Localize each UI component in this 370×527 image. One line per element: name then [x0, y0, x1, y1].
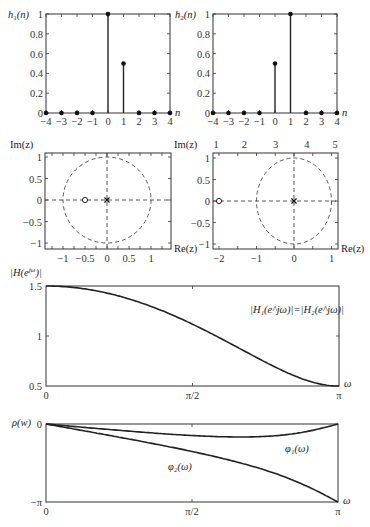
y-tick-label: 0: [37, 195, 42, 206]
y-tick-label: 1: [205, 9, 210, 20]
figure: 00.20.40.60.81−4−3−2−101234h1(n)n00.20.4…: [0, 0, 370, 527]
x-axis-label: ω: [344, 378, 351, 389]
stem-marker: [137, 111, 142, 116]
y-tick-label: 0.2: [197, 88, 210, 99]
top-tick-label: 4: [304, 139, 310, 150]
y-tick-label: 0.6: [197, 49, 210, 60]
y-tick-label: 0: [37, 419, 42, 430]
x-tick-label: 2: [303, 116, 308, 127]
y-axis-label: |H(ejω)|: [10, 266, 42, 279]
x-tick-label: 1: [148, 253, 153, 264]
x-tick-label: 0: [104, 253, 109, 264]
y-tick-label: 0.8: [197, 29, 210, 40]
stem-marker: [44, 111, 49, 116]
stem-marker: [226, 111, 231, 116]
y-tick-label: −0.5: [191, 218, 210, 229]
stem-plot-h1: 00.20.40.60.81−4−3−2−101234h1(n)n: [8, 9, 180, 127]
y-tick-label: 0.2: [30, 88, 43, 99]
y-tick-label: 0.8: [30, 29, 43, 40]
stem-marker: [152, 111, 157, 116]
stem-marker: [75, 111, 80, 116]
y-axis-label: ρ(w): [11, 417, 32, 429]
x-tick-label: 4: [334, 116, 340, 127]
x-tick-label: −1: [87, 116, 98, 127]
x-axis-label: Re(z): [174, 243, 198, 255]
x-tick-label: 3: [319, 116, 324, 127]
y-tick-label: 0.4: [30, 68, 44, 79]
stem-marker: [335, 111, 340, 116]
x-tick-label: π/2: [186, 390, 199, 401]
stem-marker: [211, 111, 216, 116]
stem-marker: [106, 12, 111, 17]
phase-plot: 0−π0π/2πρ(w)φ₁(ω)φ₂(ω)ω: [11, 417, 350, 517]
x-tick-label: π: [335, 506, 341, 517]
x-tick-label: 1: [329, 253, 334, 264]
y-axis-label: Im(z): [174, 139, 198, 151]
top-tick-label: 1: [213, 139, 218, 150]
x-axis-label: ω: [343, 495, 350, 506]
x-tick-label: −3: [56, 116, 67, 127]
y-tick-label: 0.5: [29, 381, 42, 392]
x-tick-label: −2: [238, 116, 249, 127]
stem-marker: [242, 111, 247, 116]
y-tick-label: 1.5: [29, 281, 42, 292]
pole-zero-plot-pz2: 12345−1−0.500.51−2−101Im(z)Re(z): [174, 139, 365, 264]
magnitude-curve: [46, 286, 339, 386]
stem-marker: [319, 111, 324, 116]
stem-marker: [304, 111, 309, 116]
x-tick-label: −1: [254, 116, 265, 127]
x-tick-label: −2: [71, 116, 82, 127]
y-tick-label: −1: [31, 238, 42, 249]
magnitude-plot: 0.511.50π/2π|H(ejω)||H₁(e^jω)|=|H₂(e^jω)…: [10, 266, 351, 401]
x-tick-label: 4: [167, 116, 173, 127]
stem-plot-h2: 00.20.40.60.81−4−3−2−101234h2(n)n: [175, 9, 347, 127]
y-tick-label: 1: [37, 331, 42, 342]
top-tick-label: 3: [273, 139, 278, 150]
y-tick-label: 0.5: [29, 174, 42, 185]
x-tick-label: 0: [105, 116, 110, 127]
x-tick-label: 0: [43, 506, 48, 517]
y-tick-label: −0.5: [23, 217, 42, 228]
phi2-label: φ₂(ω): [168, 461, 192, 473]
x-tick-label: −4: [207, 116, 219, 127]
y-axis-label: Im(z): [10, 139, 34, 151]
x-tick-label: 0.5: [122, 253, 135, 264]
x-tick-label: −2: [213, 253, 224, 264]
stem-marker: [273, 61, 278, 66]
x-tick-label: −4: [40, 116, 52, 127]
x-tick-label: 1: [288, 116, 293, 127]
x-axis-label: n: [342, 107, 347, 118]
zero-marker: [216, 198, 221, 203]
x-tick-label: 0: [291, 253, 296, 264]
x-tick-label: π/2: [185, 506, 198, 517]
stem-marker: [121, 61, 126, 66]
phi1-label: φ₁(ω): [285, 443, 309, 455]
y-tick-label: 1: [37, 152, 42, 163]
pole-zero-plot-pz1: −1−0.500.51−1−0.500.51Im(z)Re(z): [10, 139, 198, 264]
x-tick-label: −0.5: [75, 253, 94, 264]
top-tick-label: 5: [332, 139, 337, 150]
stem-marker: [168, 111, 173, 116]
axes-box: [46, 286, 339, 386]
stem-marker: [90, 111, 95, 116]
x-tick-label: 1: [121, 116, 126, 127]
x-axis-label: n: [175, 107, 180, 118]
x-tick-label: 2: [136, 116, 141, 127]
stem-marker: [59, 111, 64, 116]
x-tick-label: 0: [43, 390, 48, 401]
stem-marker: [257, 111, 262, 116]
y-tick-label: 0: [205, 196, 210, 207]
y-tick-label: 0.5: [197, 175, 210, 186]
x-tick-label: 0: [272, 116, 277, 127]
x-tick-label: −3: [223, 116, 234, 127]
x-tick-label: π: [336, 390, 342, 401]
x-tick-label: −1: [57, 253, 68, 264]
stem-marker: [288, 12, 293, 17]
x-tick-label: −1: [251, 253, 262, 264]
y-tick-label: −π: [31, 497, 43, 508]
y-tick-label: −1: [199, 239, 210, 250]
y-tick-label: 1: [205, 153, 210, 164]
y-tick-label: 1: [38, 9, 43, 20]
x-tick-label: 3: [152, 116, 157, 127]
zero-marker: [82, 197, 87, 202]
